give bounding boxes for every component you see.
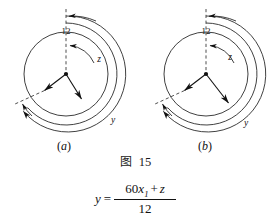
figure-caption: 图15 [0, 155, 271, 169]
panel-sublabel-a-close: ) [67, 139, 71, 153]
formula-lhs: y [95, 192, 101, 205]
hour-hand-b [185, 74, 207, 91]
formula-numerator-subscript: 1 [144, 189, 148, 199]
panel-sublabel-a: (a) [44, 139, 84, 154]
lower-left-direction-arrow-b [163, 104, 173, 116]
middle-arc-a [28, 23, 117, 125]
hour-hand-extension-dashed-b [155, 91, 185, 105]
formula-equals: = [104, 192, 111, 205]
arc-label-y-a: y [110, 115, 116, 125]
outer-direction-arrow-a [69, 16, 96, 21]
panel-sublabel-b-close: ) [208, 139, 212, 153]
clock-center-pivot-b [204, 72, 208, 76]
figure-page: 12 z y 12 z y (a) (b) [0, 0, 271, 221]
hour-hand-extension-dashed-a [15, 91, 45, 105]
inner-arc-z-a [70, 46, 94, 63]
clock-top-label-a: 12 [62, 26, 71, 36]
arc-label-z-b: z [227, 52, 232, 62]
formula-numerator-operator: + [150, 181, 157, 196]
outer-direction-arrow-b [209, 16, 236, 21]
hour-hand-a [45, 74, 67, 91]
minute-hand-b [206, 74, 229, 103]
formula-denominator: 12 [139, 200, 152, 215]
panel-sublabel-b: (b) [185, 139, 225, 154]
figure-caption-label: 图 [120, 155, 132, 169]
outer-arc-y-b [164, 16, 266, 132]
formula-numerator-term2: z [160, 181, 165, 196]
clock-top-label-b: 12 [202, 26, 211, 36]
lower-left-direction-arrow-a [23, 104, 33, 116]
clock-center-pivot-a [64, 72, 68, 76]
formula: y = 60x1+z 12 [0, 182, 271, 215]
formula-numerator-coefficient: 60 [125, 181, 138, 196]
clock-panel-b: 12 z y [155, 9, 266, 132]
middle-arc-b [168, 23, 257, 125]
arc-label-z-a: z [96, 54, 101, 64]
formula-numerator: 60x1+z [122, 182, 167, 199]
formula-fraction: 60x1+z 12 [114, 182, 176, 215]
minute-hand-a [66, 74, 82, 99]
figure-caption-number: 15 [139, 155, 152, 169]
arc-label-y-b: y [243, 118, 249, 128]
clock-panel-a: 12 z y [15, 9, 126, 132]
